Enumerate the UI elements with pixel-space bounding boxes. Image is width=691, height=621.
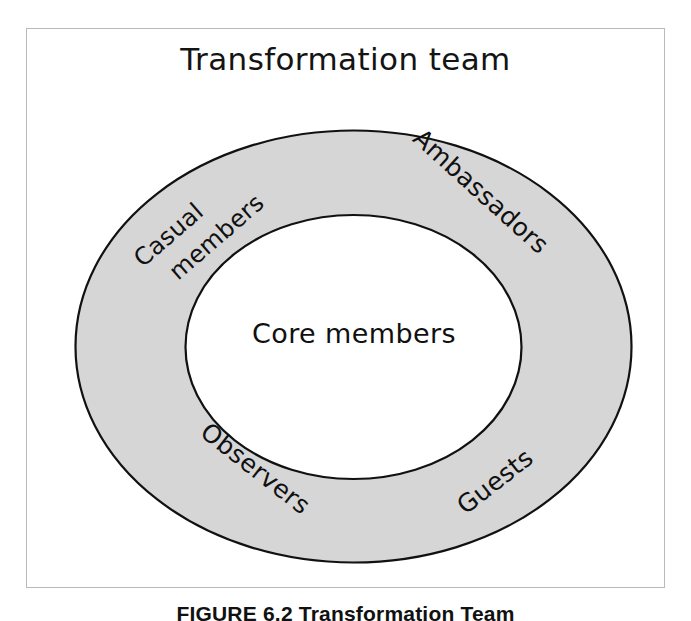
concentric-ellipse-diagram — [0, 0, 691, 621]
core-members-label: Core members — [185, 318, 523, 349]
figure-caption: FIGURE 6.2 Transformation Team — [0, 603, 691, 621]
diagram-stage — [0, 0, 691, 621]
